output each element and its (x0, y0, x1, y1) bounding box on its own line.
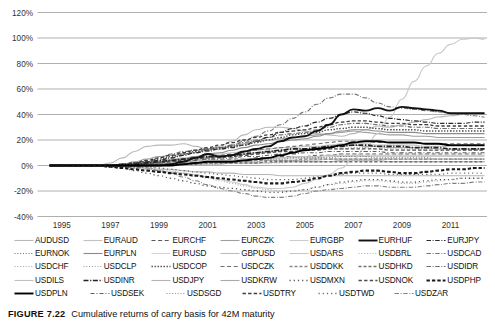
legend-label: USDJPY (172, 276, 204, 285)
legend-line-swatch (14, 249, 34, 258)
legend-line-swatch (358, 249, 378, 258)
legend-item-eurczk[interactable]: EURCZK (220, 234, 289, 247)
legend-label: USDSGD (187, 289, 221, 298)
x-axis-tick-label: 1999 (150, 221, 169, 230)
legend-item-usdclp[interactable]: USDCLP (83, 260, 152, 273)
legend-item-euraud[interactable]: EURAUD (83, 234, 152, 247)
legend-row: AUDUSDEURAUDEURCHFEURCZKEURGBPEURHUFEURJ… (0, 234, 495, 247)
legend-label: EURJPY (447, 236, 479, 245)
legend-item-usdpln[interactable]: USDPLN (14, 287, 90, 300)
y-axis-tick-label: 120% (12, 9, 33, 18)
legend-line-swatch (289, 262, 309, 271)
legend-line-swatch (90, 289, 110, 298)
legend-item-usdchf[interactable]: USDCHF (14, 260, 83, 273)
legend-item-usdars[interactable]: USDARS (289, 247, 358, 260)
x-axis-tick-labels: 199519971999200120032005200720092011 (53, 221, 460, 230)
legend-label: USDIDR (447, 262, 478, 271)
legend-line-swatch (220, 236, 240, 245)
legend-line-swatch (289, 249, 309, 258)
legend-line-swatch (151, 249, 171, 258)
legend-item-usdjpy[interactable]: USDJPY (151, 274, 220, 287)
legend-line-swatch (83, 262, 103, 271)
legend-label: EURUSD (172, 249, 206, 258)
legend-item-usdcop[interactable]: USDCOP (151, 260, 220, 273)
legend-label: USDNOK (379, 276, 413, 285)
legend-item-usdtry[interactable]: USDTRY (242, 287, 318, 300)
legend-item-usddkk[interactable]: USDDKK (289, 260, 358, 273)
y-axis-tick-label: -20% (14, 187, 33, 196)
legend-line-swatch (358, 262, 378, 271)
series-lines (50, 38, 485, 197)
legend-label: USDPLN (35, 289, 68, 298)
legend-item-gbpusd[interactable]: GBPUSD (220, 247, 289, 260)
legend-line-swatch (358, 236, 378, 245)
legend-label: EURCHF (172, 236, 206, 245)
legend-line-swatch (394, 289, 414, 298)
legend-line-swatch (83, 249, 103, 258)
legend-label: USDINR (104, 276, 135, 285)
legend-item-usdtwd[interactable]: USDTWD (318, 287, 394, 300)
legend-item-usdzar[interactable]: USDZAR (394, 287, 470, 300)
legend-item-usdnok[interactable]: USDNOK (358, 274, 427, 287)
legend-label: USDCAD (447, 249, 481, 258)
legend-item-usdsek[interactable]: USDSEK (90, 287, 166, 300)
legend-label: USDARS (310, 249, 344, 258)
figure-caption-number: FIGURE 7.22 (8, 309, 65, 319)
legend-item-eurpln[interactable]: EURPLN (83, 247, 152, 260)
legend-item-eurjpy[interactable]: EURJPY (426, 234, 495, 247)
legend-line-swatch (426, 236, 446, 245)
y-axis-tick-label: 80% (17, 60, 33, 69)
legend-line-swatch (220, 249, 240, 258)
x-axis-tick-label: 2001 (198, 221, 217, 230)
figure-root: -40%-20%0%20%40%60%80%100%120% 199519971… (0, 0, 495, 321)
x-axis-tick-label: 2011 (442, 221, 460, 230)
legend-line-swatch (83, 236, 103, 245)
chart-area: -40%-20%0%20%40%60%80%100%120% 199519971… (0, 0, 495, 232)
legend-item-eurgbp[interactable]: EURGBP (289, 234, 358, 247)
legend-item-usdinr[interactable]: USDINR (83, 274, 152, 287)
legend-line-swatch (220, 262, 240, 271)
chart-legend: AUDUSDEURAUDEURCHFEURCZKEURGBPEURHUFEURJ… (0, 234, 495, 308)
figure-caption-text: Cumulative returns of carry basis for 42… (71, 309, 274, 319)
legend-row: USDPLNUSDSEKUSDSGDUSDTRYUSDTWDUSDZAR (0, 287, 495, 300)
figure-caption: FIGURE 7.22Cumulative returns of carry b… (8, 309, 495, 321)
gridlines (38, 13, 488, 217)
legend-item-usdils[interactable]: USDILS (14, 274, 83, 287)
legend-item-usdczk[interactable]: USDCZK (220, 260, 289, 273)
legend-item-eurchf[interactable]: EURCHF (151, 234, 220, 247)
legend-line-swatch (426, 276, 446, 285)
legend-item-usdphp[interactable]: USDPHP (426, 274, 495, 287)
y-axis-tick-label: -40% (14, 213, 33, 222)
legend-item-eurnok[interactable]: EURNOK (14, 247, 83, 260)
legend-label: USDDKK (310, 262, 344, 271)
legend-item-usdidr[interactable]: USDIDR (426, 260, 495, 273)
x-axis-tick-label: 2009 (393, 221, 412, 230)
legend-label: EURPLN (104, 249, 137, 258)
legend-line-swatch (151, 276, 171, 285)
legend-item-usdhkd[interactable]: USDHKD (358, 260, 427, 273)
legend-item-eurhuf[interactable]: EURHUF (358, 234, 427, 247)
legend-item-audusd[interactable]: AUDUSD (14, 234, 83, 247)
legend-item-usdsgd[interactable]: USDSGD (166, 287, 242, 300)
legend-item-usdcad[interactable]: USDCAD (426, 247, 495, 260)
legend-line-swatch (242, 289, 262, 298)
legend-label: EURAUD (104, 236, 138, 245)
legend-label: USDPHP (447, 276, 481, 285)
y-axis-tick-label: 60% (17, 85, 33, 94)
legend-label: EURHUF (379, 236, 413, 245)
legend-line-swatch (220, 276, 240, 285)
legend-item-usdmxn[interactable]: USDMXN (289, 274, 358, 287)
legend-item-eurusd[interactable]: EURUSD (151, 247, 220, 260)
legend-label: USDBRL (379, 249, 412, 258)
y-axis-tick-labels: -40%-20%0%20%40%60%80%100%120% (12, 9, 33, 222)
y-axis-tick-label: 100% (12, 34, 33, 43)
legend-label: USDCLP (104, 262, 137, 271)
legend-row: EURNOKEURPLNEURUSDGBPUSDUSDARSUSDBRLUSDC… (0, 247, 495, 260)
legend-line-swatch (14, 289, 34, 298)
legend-line-swatch (14, 276, 34, 285)
legend-item-usdkrw[interactable]: USDKRW (220, 274, 289, 287)
x-axis-tick-label: 1995 (53, 221, 72, 230)
legend-item-usdbrl[interactable]: USDBRL (358, 247, 427, 260)
x-axis-tick-label: 2005 (296, 221, 315, 230)
legend-label: USDTRY (263, 289, 296, 298)
